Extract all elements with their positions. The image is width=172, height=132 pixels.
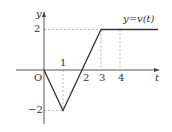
x-tick-4: 4 [118,73,124,83]
origin-label: O [34,73,42,83]
y-tick-neg-2: −2 [28,105,43,115]
y-axis-arrow-icon [42,11,46,17]
y-axis-label: y [36,9,42,19]
x-tick-2: 2 [83,73,89,83]
x-tick-3: 3 [99,73,105,83]
t-axis-label: t [155,73,159,83]
curve-label: y=v(t) [123,14,155,24]
x-tick-1: 1 [60,58,66,68]
y-tick-2: 2 [34,24,40,34]
